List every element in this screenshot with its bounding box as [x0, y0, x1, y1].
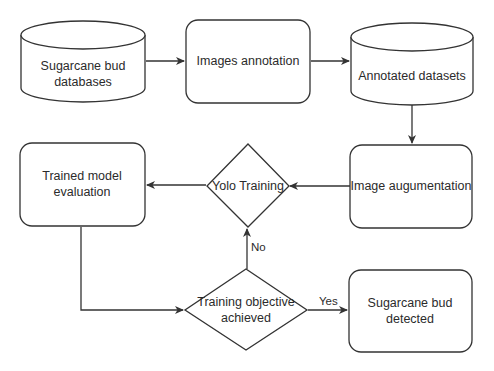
- node-label: Trained model: [42, 169, 121, 183]
- node-image-augmentation[interactable]: Image augumentation: [350, 145, 472, 228]
- node-label: Yolo Training: [212, 179, 284, 193]
- node-label: databases: [54, 75, 112, 89]
- node-label: Image augumentation: [351, 179, 472, 193]
- edge-label-yes: Yes: [319, 295, 338, 307]
- node-images-annotation[interactable]: Images annotation: [186, 20, 310, 103]
- node-annotated-datasets[interactable]: Annotated datasets: [351, 23, 473, 105]
- node-training-objective-achieved[interactable]: Training objective achieved: [185, 269, 307, 350]
- node-sugarcane-bud-databases[interactable]: Sugarcane bud databases: [21, 21, 145, 102]
- node-label: Sugarcane bud: [368, 296, 453, 310]
- node-trained-model-evaluation[interactable]: Trained model evaluation: [20, 143, 145, 226]
- node-label: evaluation: [54, 185, 111, 199]
- node-label: detected: [386, 312, 434, 326]
- node-sugarcane-bud-detected[interactable]: Sugarcane bud detected: [349, 270, 472, 352]
- edge-evaluation-to-objective: [81, 227, 183, 310]
- edge-objective-to-yolo-no: No: [247, 229, 266, 269]
- node-label: Sugarcane bud: [41, 59, 126, 73]
- edge-label-no: No: [251, 241, 266, 253]
- node-label: achieved: [221, 311, 271, 325]
- flowchart: No Yes Sugarcane bud databases Images an…: [0, 0, 494, 371]
- node-label: Annotated datasets: [358, 69, 466, 83]
- node-label: Training objective: [197, 295, 295, 309]
- edge-objective-to-detected-yes: Yes: [308, 295, 347, 310]
- node-label: Images annotation: [197, 54, 300, 68]
- node-yolo-training[interactable]: Yolo Training: [207, 144, 289, 227]
